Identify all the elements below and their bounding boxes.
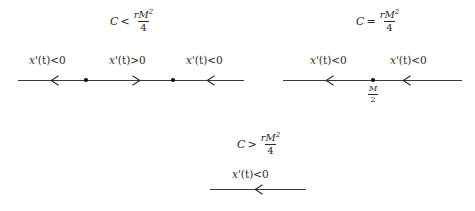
numerator-M: M xyxy=(384,9,394,20)
equilibrium-dot-p1-a xyxy=(84,78,88,82)
fraction: M 2 xyxy=(367,85,379,104)
numerator-exponent: 2 xyxy=(276,131,280,139)
condition-lhs: C xyxy=(237,139,245,150)
sign-arg: (t) xyxy=(399,54,411,66)
sign-arg: (t) xyxy=(241,168,253,180)
sign-label-p2-right: x'(t)<0 xyxy=(390,55,427,66)
fraction-numerator: rM2 xyxy=(378,10,402,21)
condition-relation: < xyxy=(119,16,130,27)
condition-less-than: C < rM2 4 xyxy=(110,10,155,33)
sign-arg: (t) xyxy=(118,54,130,66)
sign-relation: < xyxy=(411,54,420,66)
numerator-exponent: 2 xyxy=(395,8,399,16)
fraction-numerator: rM2 xyxy=(132,10,156,21)
sign-value: 0 xyxy=(59,54,66,66)
sign-relation: < xyxy=(253,168,262,180)
sign-relation: < xyxy=(50,54,59,66)
sign-label-p1-middle: x'(t)>0 xyxy=(109,55,146,66)
phase-line-figure: C < rM2 4 x'(t)<0 x'(t)>0 x'(t)<0 C = xyxy=(0,0,475,211)
sign-value: 0 xyxy=(139,54,146,66)
sign-relation: > xyxy=(130,54,139,66)
numerator-exponent: 2 xyxy=(149,8,153,16)
sign-value: 0 xyxy=(340,54,347,66)
sign-label-p1-right: x'(t)<0 xyxy=(186,55,223,66)
sign-value: 0 xyxy=(420,54,427,66)
equilibrium-dot-p2 xyxy=(371,78,375,82)
fraction-numerator: rM2 xyxy=(259,133,283,144)
equilibrium-label-m-over-2: M 2 xyxy=(358,85,388,104)
sign-value: 0 xyxy=(262,168,269,180)
sign-arg: (t) xyxy=(319,54,331,66)
fraction: rM2 4 xyxy=(259,133,283,156)
sign-value: 0 xyxy=(216,54,223,66)
equilibrium-dot-p1-b xyxy=(171,78,175,82)
sign-arg: (t) xyxy=(38,54,50,66)
arrow-right-p1 xyxy=(130,75,141,86)
fraction-denominator: 4 xyxy=(265,144,275,156)
arrow-left-p2-b xyxy=(402,75,413,86)
arrow-left-p1-a xyxy=(50,75,61,86)
condition-relation: = xyxy=(365,16,376,27)
arrow-left-p2-a xyxy=(325,75,336,86)
sign-relation: < xyxy=(207,54,216,66)
condition-lhs: C xyxy=(110,16,118,27)
numerator-M: M xyxy=(138,9,148,20)
condition-lhs: C xyxy=(356,16,364,27)
arrow-left-p3 xyxy=(254,184,265,195)
fraction-denominator: 4 xyxy=(138,21,148,33)
condition-equal: C = rM2 4 xyxy=(356,10,401,33)
arrow-left-p1-b xyxy=(206,75,217,86)
sign-label-p2-left: x'(t)<0 xyxy=(310,55,347,66)
fraction-denominator: 2 xyxy=(368,94,377,104)
sign-relation: < xyxy=(331,54,340,66)
condition-relation: > xyxy=(246,139,257,150)
numerator-M: M xyxy=(265,132,275,143)
fraction: rM2 4 xyxy=(378,10,402,33)
sign-label-p1-left: x'(t)<0 xyxy=(29,55,66,66)
condition-greater-than: C > rM2 4 xyxy=(237,133,282,156)
fraction: rM2 4 xyxy=(132,10,156,33)
sign-label-p3: x'(t)<0 xyxy=(232,169,269,180)
fraction-denominator: 4 xyxy=(384,21,394,33)
sign-arg: (t) xyxy=(195,54,207,66)
fraction-numerator: M xyxy=(367,85,379,94)
